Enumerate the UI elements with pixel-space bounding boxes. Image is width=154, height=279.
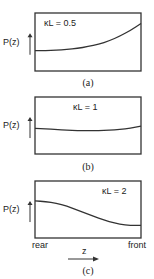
- y-arrow-head-icon: [28, 33, 33, 37]
- x-end-label: front: [128, 240, 147, 250]
- panel-caption: (b): [82, 161, 94, 173]
- y-axis-label: P(z): [3, 204, 20, 214]
- annotation-label: κL = 2: [102, 186, 126, 196]
- x-axis-label: z: [82, 246, 87, 256]
- panel-c: P(z)κL = 2(c)rearfrontz: [3, 181, 147, 277]
- y-arrow-head-icon: [28, 201, 33, 205]
- annotation-label: κL = 0.5: [44, 18, 76, 28]
- panel-caption: (a): [82, 77, 93, 89]
- panel-caption: (c): [82, 265, 93, 277]
- panel-b: P(z)κL = 1(b): [3, 97, 141, 173]
- panel-a: P(z)κL = 0.5(a): [3, 13, 141, 89]
- series-line: [35, 126, 141, 131]
- x-start-label: rear: [32, 240, 48, 250]
- x-arrow-head-icon: [93, 257, 99, 262]
- y-axis-label: P(z): [3, 120, 20, 130]
- figure: P(z)κL = 0.5(a)P(z)κL = 1(b)P(z)κL = 2(c…: [0, 0, 154, 279]
- y-axis-label: P(z): [3, 37, 20, 47]
- annotation-label: κL = 1: [73, 102, 97, 112]
- y-arrow-head-icon: [28, 117, 33, 121]
- series-line: [35, 201, 141, 226]
